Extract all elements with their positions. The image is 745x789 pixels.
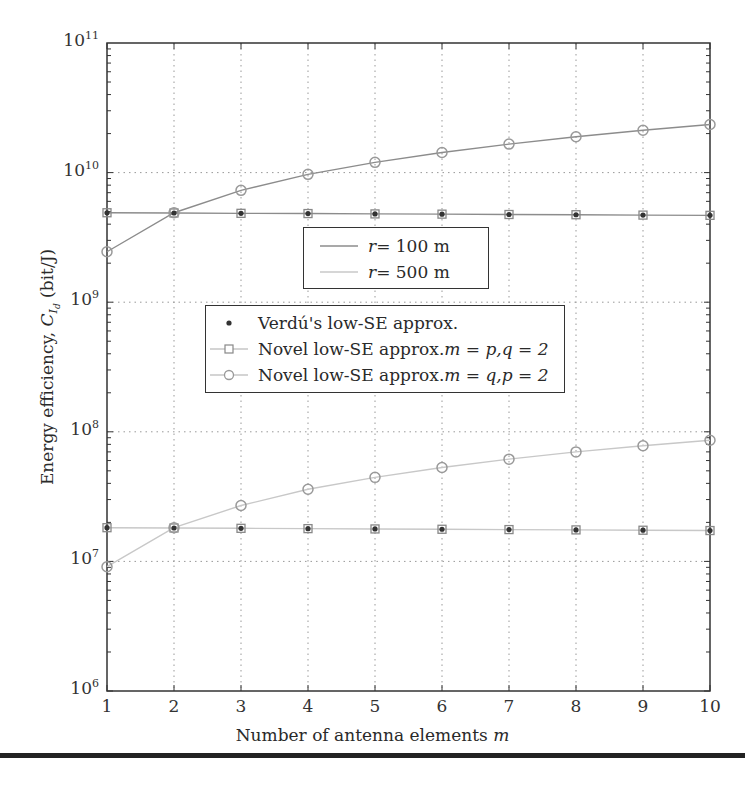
dot-marker-icon [210,316,250,330]
page-bottom-rule [0,753,745,758]
legend-approximations: Verdú's low-SE approx.Novel low-SE appro… [205,305,565,393]
x-tick-label: 4 [293,696,323,716]
y-tick-label: 109 [39,288,99,309]
legend-entry: r = 100 m [320,233,488,259]
data-point-verdu [104,210,109,215]
data-point-verdu [305,526,310,531]
x-tick-label: 10 [695,696,725,716]
data-point-verdu [104,525,109,530]
legend-cond-b: q = 2 [502,339,549,359]
data-point-verdu [372,526,377,531]
data-point-verdu [707,213,712,218]
legend-line-icon [320,265,360,279]
x-tick-label: 7 [494,696,524,716]
data-point-verdu [305,211,310,216]
legend-label: = 500 m [376,262,450,282]
data-point-verdu [171,525,176,530]
data-point-verdu [640,528,645,533]
square-marker-icon [210,342,250,356]
y-axis-label-var: C [37,313,57,326]
x-axis-label-text: Number of antenna elements [236,725,493,745]
data-point-verdu [439,212,444,217]
legend-entry: Verdú's low-SE approx. [206,310,564,336]
x-axis-label: Number of antenna elements m [0,725,745,745]
data-point-verdu [506,212,511,217]
legend-entry: r = 500 m [320,259,488,285]
legend-label: = 100 m [376,236,450,256]
series-line [107,440,710,566]
y-axis-label: Energy efficiency, CId (bit/J) [37,249,63,485]
data-point-verdu [372,211,377,216]
x-axis-label-var: m [493,725,509,745]
data-point-verdu [238,211,243,216]
series-line [107,213,710,216]
y-axis-label-text: Energy efficiency, [37,326,57,485]
y-tick-label: 107 [39,547,99,568]
data-point-verdu [640,212,645,217]
data-point-verdu [707,528,712,533]
legend-distance: r = 100 mr = 500 m [303,227,489,289]
x-tick-label: 9 [628,696,658,716]
data-point-verdu [238,526,243,531]
legend-label: Novel low-SE approx. [258,339,444,359]
legend-label: Verdú's low-SE approx. [258,313,458,333]
y-tick-label: 108 [39,418,99,439]
legend-var: r [368,236,376,256]
legend-cond-a: m = p, [444,339,501,359]
y-tick-label: 106 [39,677,99,698]
legend-cond-b: p = 2 [502,365,549,385]
data-point-verdu [171,210,176,215]
x-tick-label: 2 [159,696,189,716]
y-tick-label: 1010 [39,159,99,180]
x-tick-label: 8 [561,696,591,716]
legend-entry: Novel low-SE approx. m = q, p = 2 [206,362,564,388]
legend-var: r [368,262,376,282]
x-tick-label: 6 [427,696,457,716]
x-tick-label: 5 [360,696,390,716]
x-tick-label: 1 [92,696,122,716]
chart-plot-area [0,0,745,789]
series-line [107,528,710,531]
data-point-verdu [573,527,578,532]
circle-marker-icon [210,368,250,382]
legend-line-icon [320,239,360,253]
legend-cond-a: m = q, [444,365,501,385]
y-tick-label: 1011 [39,29,99,50]
legend-label: Novel low-SE approx. [258,365,444,385]
legend-entry: Novel low-SE approx. m = p, q = 2 [206,336,564,362]
data-point-verdu [506,527,511,532]
data-point-verdu [573,212,578,217]
y-axis-label-sub: I [48,309,61,313]
x-tick-label: 3 [226,696,256,716]
data-point-verdu [439,527,444,532]
